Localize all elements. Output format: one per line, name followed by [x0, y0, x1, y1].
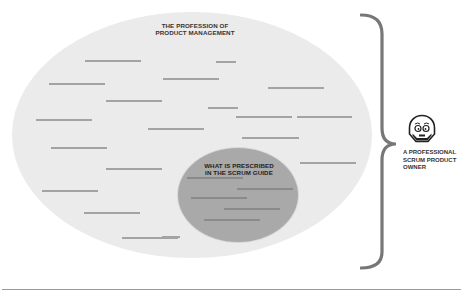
placeholder-text-line [36, 119, 92, 121]
placeholder-text-line [162, 236, 180, 238]
po-label-line3: OWNER [403, 164, 467, 172]
inner-ellipse-label: WHAT IS PRESCRIBED IN THE SCRUM GUIDE [194, 162, 284, 176]
placeholder-text-line [216, 61, 236, 63]
placeholder-text-line [268, 87, 324, 89]
outer-label-line2: PRODUCT MANAGEMENT [140, 29, 250, 36]
po-label-line1: A PROFESSIONAL [403, 149, 467, 157]
placeholder-text-line [242, 137, 299, 139]
placeholder-text-line [148, 128, 204, 130]
placeholder-text-line [85, 60, 141, 62]
placeholder-text-line [300, 162, 356, 164]
placeholder-text-line [224, 208, 280, 210]
product-owner-label: A PROFESSIONAL SCRUM PRODUCT OWNER [403, 149, 467, 172]
placeholder-text-line [49, 83, 105, 85]
placeholder-text-line [204, 219, 260, 221]
product-owner-face-icon [408, 114, 436, 144]
placeholder-text-line [51, 147, 107, 149]
placeholder-text-line [191, 197, 247, 199]
po-label-line2: SCRUM PRODUCT [403, 157, 467, 165]
placeholder-text-line [297, 116, 352, 118]
placeholder-text-line [84, 212, 140, 214]
outer-ellipse-label: THE PROFESSION OF PRODUCT MANAGEMENT [140, 22, 250, 36]
placeholder-text-line [237, 188, 293, 190]
placeholder-text-line [163, 78, 219, 80]
placeholder-text-line [42, 190, 98, 192]
outer-label-line1: THE PROFESSION OF [140, 22, 250, 29]
placeholder-text-line [106, 168, 162, 170]
placeholder-text-line [187, 177, 243, 179]
placeholder-text-line [208, 107, 238, 109]
bottom-divider [2, 289, 461, 290]
curly-brace-icon [360, 12, 400, 272]
placeholder-text-line [106, 100, 162, 102]
placeholder-text-line [236, 116, 292, 118]
inner-label-line2: IN THE SCRUM GUIDE [194, 169, 284, 176]
inner-label-line1: WHAT IS PRESCRIBED [194, 162, 284, 169]
